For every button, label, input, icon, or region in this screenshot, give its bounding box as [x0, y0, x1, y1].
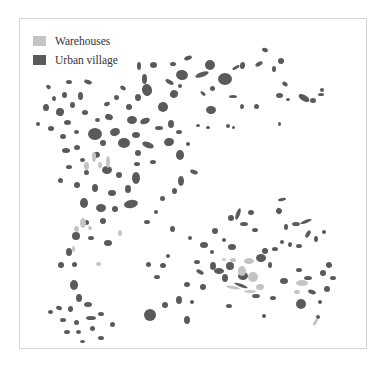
legend-label-warehouses: Warehouses — [55, 35, 110, 47]
urban-village-swatch-icon — [33, 55, 46, 65]
legend: Warehouses Urban village — [33, 31, 118, 69]
legend-label-urban-village: Urban village — [55, 54, 118, 66]
legend-container: Warehouses Urban village — [19, 18, 367, 349]
legend-item-urban-village: Urban village — [33, 50, 118, 69]
legend-item-warehouses: Warehouses — [33, 31, 118, 50]
warehouses-swatch-icon — [33, 36, 46, 46]
